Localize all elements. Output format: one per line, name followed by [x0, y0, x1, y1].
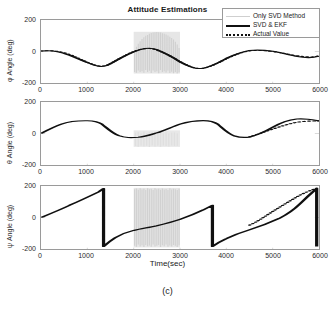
- figure-caption: (c): [0, 286, 335, 296]
- y-tick-top-2: 200: [10, 98, 36, 105]
- subplot-theta: [40, 101, 320, 166]
- x-tick-5000-sp3: 5000: [256, 252, 290, 259]
- svd-noise-region-1: [134, 32, 180, 74]
- y-tick-bot-3: -200: [10, 245, 36, 252]
- y-tick-mid-2: 0: [10, 130, 36, 137]
- legend-swatch-svd-ekf: [226, 21, 250, 29]
- legend-entry-svd-ekf: SVD & EKF: [226, 20, 316, 29]
- y-tick-top-1: 200: [10, 16, 36, 23]
- x-tick-6000-sp1: 6000: [303, 86, 335, 93]
- x-tick-6000-sp2: 6000: [303, 168, 335, 175]
- x-tick-1000-sp1: 1000: [69, 86, 103, 93]
- x-tick-0-sp2: 0: [23, 168, 57, 175]
- legend-swatch-only-svd: [226, 12, 250, 20]
- x-tick-1000-sp3: 1000: [69, 252, 103, 259]
- y-axis-label-theta: θ Angle (deg): [6, 122, 13, 164]
- legend-label-svd-ekf: SVD & EKF: [253, 20, 287, 29]
- legend-entry-actual-value: Actual Value: [226, 29, 316, 38]
- subplot-theta-canvas: [41, 102, 319, 165]
- x-tick-3000-sp2: 3000: [163, 168, 197, 175]
- y-tick-mid-1: 0: [10, 48, 36, 55]
- legend: Only SVD Method SVD & EKF Actual Value: [222, 8, 320, 38]
- y-tick-bot-2: -200: [10, 161, 36, 168]
- x-tick-4000-sp3: 4000: [209, 252, 243, 259]
- x-tick-4000-sp1: 4000: [209, 86, 243, 93]
- series-actual-value-2: [250, 121, 320, 137]
- y-axis-label-psi: ψ Angle (deg): [6, 205, 13, 248]
- x-tick-1000-sp2: 1000: [69, 168, 103, 175]
- subplot-psi: [40, 185, 320, 250]
- y-axis-label-phi: φ Angle (deg): [6, 39, 13, 82]
- y-tick-bot-1: -200: [10, 79, 36, 86]
- legend-swatch-actual-value: [226, 30, 250, 38]
- x-tick-5000-sp1: 5000: [256, 86, 290, 93]
- x-axis-label: Time(sec): [0, 259, 335, 268]
- figure-container: Attitude Estimations φ Angle (deg) 200 0…: [0, 0, 335, 311]
- x-tick-3000-sp1: 3000: [163, 86, 197, 93]
- x-tick-0-sp1: 0: [23, 86, 57, 93]
- x-tick-2000-sp2: 2000: [116, 168, 150, 175]
- subplot-psi-canvas: [41, 186, 319, 249]
- legend-entry-only-svd: Only SVD Method: [226, 11, 316, 20]
- x-tick-5000-sp2: 5000: [256, 168, 290, 175]
- x-tick-6000-sp3: 6000: [303, 252, 335, 259]
- x-tick-2000-sp3: 2000: [116, 252, 150, 259]
- legend-label-actual-value: Actual Value: [253, 29, 289, 38]
- x-tick-3000-sp3: 3000: [163, 252, 197, 259]
- y-tick-mid-3: 0: [10, 214, 36, 221]
- svd-noise-region-3: [134, 188, 180, 248]
- x-tick-0-sp3: 0: [23, 252, 57, 259]
- series-actual-value-3: [250, 188, 317, 225]
- x-tick-2000-sp1: 2000: [116, 86, 150, 93]
- y-tick-top-3: 200: [10, 182, 36, 189]
- legend-label-only-svd: Only SVD Method: [253, 11, 305, 20]
- x-tick-4000-sp2: 4000: [209, 168, 243, 175]
